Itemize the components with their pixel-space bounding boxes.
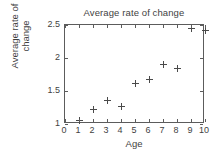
- x-axis-tick: [149, 25, 150, 28]
- x-axis-tick: [79, 119, 80, 122]
- y-tick-label: 1: [30, 118, 60, 128]
- plot-area: [64, 24, 204, 123]
- y-axis-label-line-2: change: [20, 4, 31, 69]
- x-axis-tick: [191, 25, 192, 28]
- x-axis-tick: [93, 25, 94, 28]
- y-axis-tick: [65, 58, 68, 59]
- x-axis-label: Age: [64, 138, 204, 149]
- x-axis-tick: [205, 25, 206, 28]
- x-axis-tick: [163, 119, 164, 122]
- x-axis-tick: [93, 119, 94, 122]
- x-axis-tick: [135, 119, 136, 122]
- x-axis-tick: [205, 119, 206, 122]
- y-axis-tick: [65, 91, 68, 92]
- y-axis-tick: [200, 91, 203, 92]
- x-axis-tick: [121, 119, 122, 122]
- data-points-layer: [65, 25, 203, 122]
- x-axis-tick: [149, 119, 150, 122]
- x-axis-tick: [107, 25, 108, 28]
- x-axis-tick: [191, 119, 192, 122]
- chart-figure: Average rate of change 012345678910 11.5…: [0, 0, 219, 157]
- x-axis-tick: [177, 119, 178, 122]
- x-axis-tick: [121, 25, 122, 28]
- data-point-marker: [132, 80, 139, 87]
- x-axis-tick: [163, 25, 164, 28]
- y-axis-tick: [65, 25, 68, 26]
- x-axis-tick: [107, 119, 108, 122]
- data-point-marker: [90, 106, 97, 113]
- x-tick-label: 10: [194, 125, 214, 135]
- x-axis-tick: [65, 119, 66, 122]
- data-point-marker: [174, 65, 181, 72]
- x-axis-tick: [177, 25, 178, 28]
- x-axis-tick: [79, 25, 80, 28]
- y-axis-label-line-1: Average rate of: [9, 4, 20, 69]
- y-axis-label: Average rate of change: [2, 0, 38, 96]
- data-point-marker: [146, 76, 153, 83]
- chart-title: Average rate of change: [64, 7, 204, 18]
- y-axis-tick: [200, 25, 203, 26]
- data-point-marker: [118, 103, 125, 110]
- y-axis-tick: [200, 58, 203, 59]
- data-point-marker: [160, 61, 167, 68]
- data-point-marker: [104, 97, 111, 104]
- x-axis-tick: [135, 25, 136, 28]
